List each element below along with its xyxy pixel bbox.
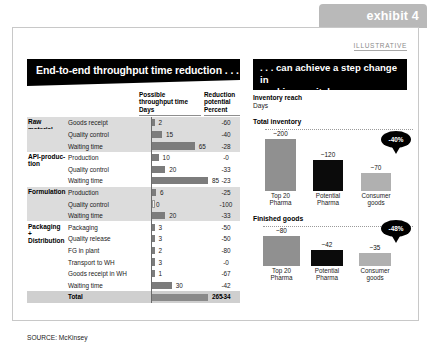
table-row: FG in plant2-80 [27,245,240,257]
row-days-value: 20 [169,212,176,219]
row-reduction-value: -33 [213,166,239,173]
table-row: Quality control20-33 [27,163,240,175]
chart-bar-fill [265,139,296,191]
row-activity-label: Quality release [68,235,111,242]
row-bar [152,247,155,254]
throughput-table: Possible throughput time Days Reduction … [27,91,240,303]
row-reduction-value: -60 [213,119,239,126]
row-activity-label: Waiting time [68,143,103,150]
row-bar [152,224,155,231]
chart-bar: ~120 [313,160,343,191]
row-bar [152,200,155,207]
row-days-value: 65 [199,143,206,150]
row-bar [152,258,155,265]
row-days-value: 2 [159,119,163,126]
chart-bar: ~70 [361,173,391,191]
chart-title-total-inventory: Total inventory [253,118,421,125]
row-bar [152,154,159,161]
table-row: Packaging + DistributionPackaging3-50 [27,221,240,233]
row-reduction-value: -100 [213,201,239,208]
row-reduction-value: -50 [213,224,239,231]
chart-category-label: PotentialPharma [307,192,349,208]
table-row: Waiting time85-23 [27,175,240,187]
row-bar [152,270,155,277]
table-row: Waiting time65-28 [27,140,240,152]
row-reduction-value: -28 [213,143,239,150]
chart-category-label: Top 20Pharma [259,192,302,208]
row-days-value: 2 [159,247,163,254]
row-activity-label: Quality control [68,201,109,208]
illustrative-label: ILLUSTRATIVE [354,42,407,51]
chart-bar-value: ~70 [361,164,391,171]
row-activity-label: Packaging [68,224,98,231]
chart-finished-goods: ~80~42~35-48% [253,226,415,266]
right-panel: Inventory reach Days Total inventory ~20… [253,94,421,283]
row-group-label: Formulation [28,188,66,195]
bar-axis-line [151,117,152,303]
header-rule-2 [139,115,201,116]
chart-reduction-badge: -48% [381,220,411,237]
row-days-value: 20 [169,166,176,173]
chart-bar: ~80 [263,236,300,266]
table-row: API-produc-tionProduction10-0 [27,152,240,164]
right-title-line1: . . . can achieve a step change in [260,62,401,86]
chart-bar-value: ~42 [311,241,343,248]
chart-category-label: Consumergoods [355,192,397,208]
row-days-value: 30 [176,282,183,289]
table-row: Waiting time20-33 [27,210,240,222]
chart-bar-fill [311,250,343,266]
row-bar [152,212,165,219]
row-activity-label: Quality control [68,131,109,138]
table-row: Quality control15-40 [27,129,240,141]
table-row: Waiting time30-42 [27,279,240,291]
row-bar [152,189,156,196]
row-activity-label: Goods receipt [68,119,108,126]
chart-bar-value: ~80 [263,227,300,234]
row-activity-label: Goods receipt in WH [68,270,127,277]
exhibit-tab-label: exhibit 4 [366,9,419,23]
total-bar [152,294,208,301]
row-reduction-value: -33 [213,212,239,219]
chart-reduction-badge-label: -40% [389,136,404,143]
chart-reduction-badge-label: -48% [389,225,404,232]
chart-category-label: Consumergoods [353,267,397,283]
row-days-value: 3 [159,235,163,242]
table-row: Goods receipt in WH1-67 [27,268,240,280]
table-row: Transport to WH3-0 [27,256,240,268]
row-bar [152,177,208,184]
row-reduction-value: -80 [213,247,239,254]
row-reduction-value: -50 [213,235,239,242]
row-reduction-value: -25 [213,189,239,196]
row-days-value: 10 [163,154,170,161]
row-activity-label: Production [68,189,99,196]
chart-finished-goods-labels: Top 20PharmaPotentialPharmaConsumergoods [253,266,421,283]
chart-bar-fill [359,253,391,266]
table-row: FormulationProduction6-25 [27,187,240,199]
table-row: Quality release3-50 [27,233,240,245]
row-days-value: 15 [166,131,173,138]
table-body: Raw material supplyGoods receipt2-60Qual… [27,117,240,303]
header-reduction-potential: Reduction potential Percent [204,91,248,114]
row-activity-label: Waiting time [68,177,103,184]
header-possible-throughput: Possible throughput time Days [139,91,203,114]
row-bar [152,119,155,126]
row-days-value: 1 [159,270,163,277]
chart-bar-fill [313,160,343,191]
chart-bar-value: ~200 [265,130,296,137]
row-reduction-value: -42 [213,282,239,289]
chart-bar-value: ~120 [313,151,343,158]
right-title: . . . can achieve a step change in worki… [253,59,407,90]
row-days-value: 3 [159,259,163,266]
row-reduction-value: -40 [213,131,239,138]
metric-unit: Days [253,102,421,110]
chart-bar-fill [263,236,300,266]
header-rule-3 [204,115,240,116]
left-title-text: End-to-end throughput time reduction . .… [36,64,239,76]
chart-bar: ~200 [265,139,296,191]
row-activity-label: Transport to WH [68,259,115,266]
table-row: Raw material supplyGoods receipt2-60 [27,117,240,129]
table-row: Quality control0-100 [27,198,240,210]
chart-bar: ~42 [311,250,343,266]
exhibit-card: ILLUSTRATIVE End-to-end throughput time … [12,27,419,321]
left-title: End-to-end throughput time reduction . .… [27,59,240,86]
